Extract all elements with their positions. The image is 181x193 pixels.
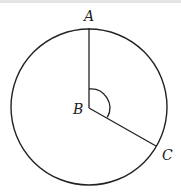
- point-label-c: C: [162, 147, 173, 163]
- point-label-a: A: [82, 8, 94, 24]
- radius-BC: [89, 108, 156, 146]
- circle-diagram: A B C: [0, 0, 181, 193]
- point-label-b: B: [72, 101, 83, 117]
- angle-arc-ABC: [89, 89, 110, 117]
